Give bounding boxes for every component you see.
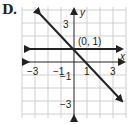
- x-tick-neg-3: −3: [27, 66, 39, 77]
- y-axis-label: y: [79, 7, 86, 18]
- coordinate-graph: y x (0, 1) 3 −1 −3 −3 −1 1 3: [0, 0, 133, 124]
- x-tick-1: 1: [84, 66, 90, 77]
- x-axis-label: x: [119, 51, 126, 62]
- x-tick-3: 3: [110, 66, 116, 77]
- y-tick-3: 3: [63, 19, 69, 30]
- point-annotation: (0, 1): [78, 36, 101, 47]
- y-tick-neg-3: −3: [60, 99, 72, 110]
- x-tick-neg-1: −1: [53, 66, 65, 77]
